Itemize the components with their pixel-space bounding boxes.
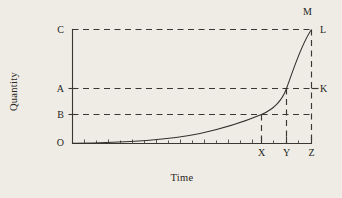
y-tick-label-C: C	[52, 25, 64, 35]
vertical-gridlines	[262, 30, 312, 144]
exponential-curve	[73, 30, 311, 143]
y-tick-label-A: A	[52, 84, 64, 94]
x-axis-title: Time	[152, 172, 212, 183]
y-axis-title: Quantity	[8, 60, 19, 124]
origin-label-O: O	[52, 138, 64, 148]
x-tick-label-Z: Z	[306, 148, 318, 158]
point-label-K: K	[320, 84, 332, 94]
point-label-L: L	[320, 25, 332, 35]
x-axis-minor-ticks	[85, 140, 299, 144]
x-tick-label-X: X	[256, 148, 268, 158]
horizontal-gridlines	[73, 30, 312, 115]
x-tick-label-Y: Y	[281, 148, 293, 158]
figure-container: C A B O X Y Z M L K Quantity Time	[0, 0, 342, 198]
axes-group	[73, 30, 312, 144]
point-label-M: M	[303, 7, 315, 17]
y-tick-label-B: B	[52, 110, 64, 120]
